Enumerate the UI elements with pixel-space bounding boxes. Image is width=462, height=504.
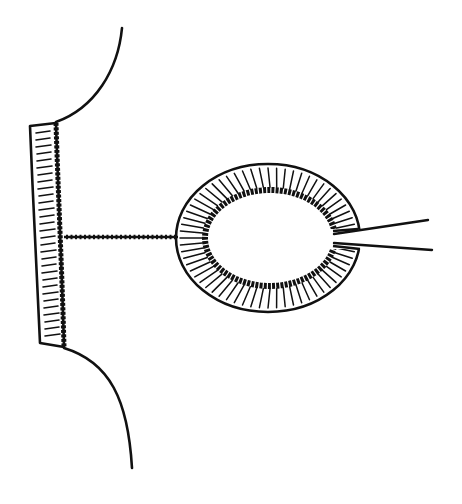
background: [0, 0, 462, 504]
diagram-canvas: [0, 0, 462, 504]
